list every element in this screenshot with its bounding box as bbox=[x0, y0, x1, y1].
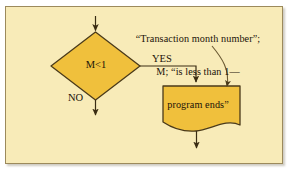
annotation-line-3: program ends” bbox=[118, 99, 278, 110]
annotation-text: “Transaction month number”; M; “is less … bbox=[118, 11, 278, 132]
annotation-line-2: M; “is less than 1— bbox=[118, 66, 278, 77]
no-branch-label: NO bbox=[68, 92, 83, 103]
flowchart-figure: “Transaction month number”; M; “is less … bbox=[0, 0, 292, 174]
annotation-line-1: “Transaction month number”; bbox=[118, 33, 278, 44]
yes-branch-label: YES bbox=[152, 53, 172, 64]
decision-label: M<1 bbox=[74, 59, 118, 70]
